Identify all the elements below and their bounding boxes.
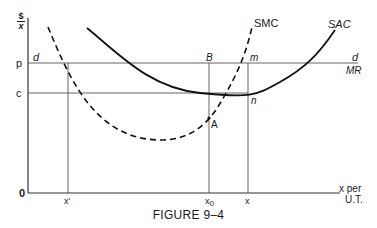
point-b-label: B: [206, 53, 213, 63]
cost-curves-diagram: [0, 0, 377, 228]
x-prime-tick-label: x′: [64, 197, 70, 206]
smc-label: SMC: [254, 18, 278, 29]
price-label: p: [16, 58, 22, 69]
smc-curve: [48, 27, 252, 140]
x-axis-label-line2: U.T.: [345, 195, 363, 205]
x-tick-label: x: [245, 197, 250, 206]
x-axis-label-line1: x per: [339, 184, 361, 194]
x0-subscript: 0: [210, 199, 214, 208]
y-axis-label-x: x: [18, 21, 23, 31]
point-m-label: m: [250, 53, 258, 63]
x0-tick-label: x0: [205, 197, 214, 208]
sac-label: SAC: [328, 19, 351, 30]
point-a-label: A: [211, 120, 218, 130]
demand-label-right: d: [352, 52, 358, 63]
point-n-label: n: [251, 96, 257, 106]
figure-caption: FIGURE 9–4: [0, 208, 377, 222]
y-axis-label: $ x: [16, 12, 26, 31]
mr-label: MR: [346, 66, 362, 76]
demand-label-left: d: [33, 52, 39, 63]
cost-label: c: [16, 88, 22, 99]
origin-label: 0: [19, 188, 25, 199]
y-axis-label-dollar: $: [18, 11, 23, 21]
